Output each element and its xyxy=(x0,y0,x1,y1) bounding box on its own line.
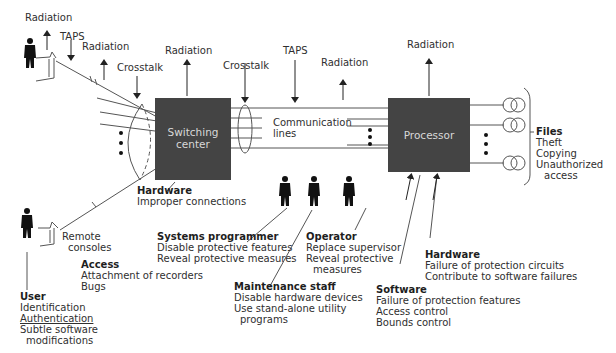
hardware-processor-title: Hardware xyxy=(425,249,577,260)
hardware-processor-group: Hardware Failure of protection circuits … xyxy=(425,249,577,282)
processor-label: Processor xyxy=(388,129,470,141)
systems-programmer-group: Systems programmer Disable protective fe… xyxy=(157,231,297,264)
radiation-processor-label: Radiation xyxy=(407,39,454,50)
crosstalk-left-label: Crosstalk xyxy=(117,62,163,73)
files-title: Files xyxy=(536,126,603,137)
person-systems-programmer-icon xyxy=(279,176,291,206)
bottom-terminal-icon xyxy=(38,222,58,246)
radiation-line-label: Radiation xyxy=(82,41,129,52)
remote-consoles-group: Remote consoles xyxy=(62,231,111,253)
operator-group: Operator Replace supervisor Reveal prote… xyxy=(306,231,401,275)
hardware-switch-group: Hardware Improper connections xyxy=(137,185,246,207)
hardware-switch-title: Hardware xyxy=(137,185,246,196)
software-title: Software xyxy=(376,284,520,295)
switching-center-label-2: center xyxy=(155,138,231,150)
systems-programmer-title: Systems programmer xyxy=(157,231,297,242)
processor-box: Processor xyxy=(388,98,470,172)
person-operator-icon xyxy=(343,176,355,206)
taps-mid-label: TAPS xyxy=(283,45,308,56)
maintenance-staff-title: Maintenance staff xyxy=(234,281,363,292)
switching-center-label-1: Switching xyxy=(155,126,231,138)
software-group: Software Failure of protection features … xyxy=(376,284,520,328)
maintenance-staff-group: Maintenance staff Disable hardware devic… xyxy=(234,281,363,325)
files-group: Files Theft Copying Unauthorized access xyxy=(536,126,603,181)
top-terminal-icon xyxy=(36,52,56,81)
radiation-mid-label: Radiation xyxy=(321,57,368,68)
radiation-switch-label: Radiation xyxy=(165,45,212,56)
switching-center-box: Switching center xyxy=(155,98,231,180)
person-top-user-icon xyxy=(24,38,36,68)
communication-lines-label: Communication lines xyxy=(273,117,352,139)
crosstalk-mid-label: Crosstalk xyxy=(223,60,269,71)
radiation-user-label: Radiation xyxy=(25,12,72,23)
user-group: User Identification Authentication Subtl… xyxy=(20,291,98,346)
user-title: User xyxy=(20,291,98,302)
operator-title: Operator xyxy=(306,231,401,242)
person-maintenance-icon xyxy=(308,176,320,206)
taps-user-label: TAPS xyxy=(60,31,85,42)
person-bottom-user-icon xyxy=(21,208,33,238)
